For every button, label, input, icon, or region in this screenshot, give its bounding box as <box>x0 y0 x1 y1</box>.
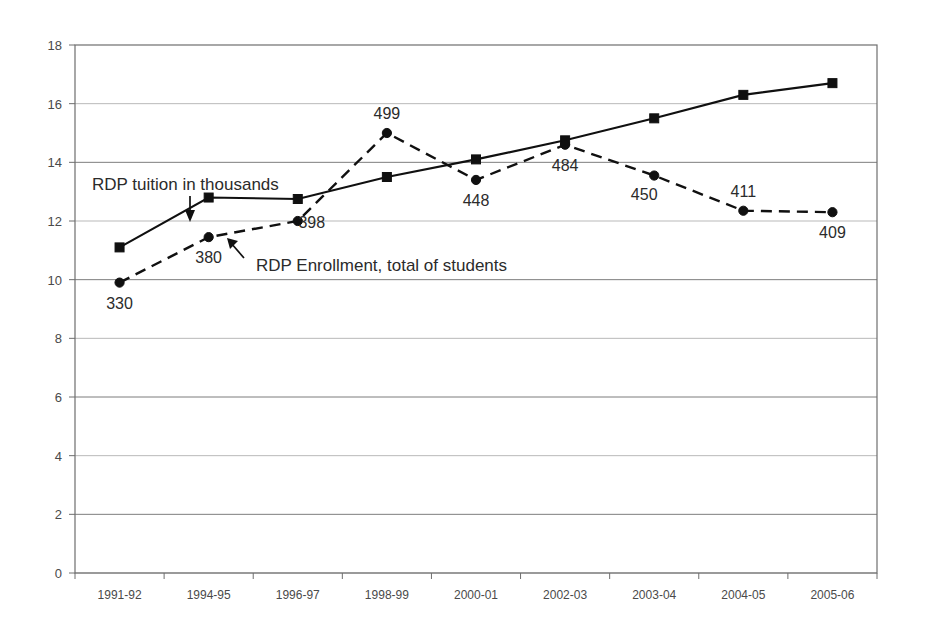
y-axis-ticks-group <box>69 45 75 573</box>
x-axis-tick-label: 1994-95 <box>187 588 231 602</box>
x-axis-tick-label: 2002-03 <box>543 588 587 602</box>
y-axis-labels-group: 024681012141618 <box>48 38 62 581</box>
x-axis-tick-label: 1998-99 <box>365 588 409 602</box>
x-axis-ticks-group <box>75 573 877 579</box>
x-axis-tick-label: 2000-01 <box>454 588 498 602</box>
data-point-label: 398 <box>298 214 325 231</box>
enrollment-data-point <box>561 140 570 149</box>
arrow-up-left-head-icon <box>227 238 238 249</box>
y-axis-tick-label: 0 <box>55 566 62 581</box>
x-axis-labels-group: 1991-921994-951996-971998-992000-012002-… <box>98 588 855 602</box>
enrollment-data-point <box>739 206 748 215</box>
enrollment-data-point <box>828 208 837 217</box>
y-axis-tick-label: 18 <box>48 38 62 53</box>
data-point-label: 484 <box>552 157 579 174</box>
x-axis-tick-label: 1996-97 <box>276 588 320 602</box>
enrollment-data-point <box>382 128 391 137</box>
data-point-label: 450 <box>631 186 658 203</box>
x-axis-tick-label: 2005-06 <box>810 588 854 602</box>
data-point-label: 409 <box>819 224 846 241</box>
x-axis-tick-label: 1991-92 <box>98 588 142 602</box>
data-point-label: 411 <box>731 183 757 200</box>
data-point-label: 448 <box>463 192 490 209</box>
x-axis-tick-label: 2003-04 <box>632 588 676 602</box>
tuition-annotation-label: RDP tuition in thousands <box>92 175 279 194</box>
data-point-label: 499 <box>374 105 401 122</box>
y-axis-tick-label: 8 <box>55 331 62 346</box>
tuition-line <box>120 83 833 247</box>
chart-canvas: 024681012141618 1991-921994-951996-97199… <box>0 0 925 644</box>
arrow-down-head-icon <box>185 210 195 222</box>
enrollment-data-point <box>115 278 124 287</box>
tuition-data-point <box>472 155 481 164</box>
enrollment-data-point <box>650 171 659 180</box>
tuition-data-point <box>739 90 748 99</box>
y-axis-tick-label: 10 <box>48 273 62 288</box>
y-axis-tick-label: 12 <box>48 214 62 229</box>
y-axis-tick-label: 2 <box>55 507 62 522</box>
tuition-data-point <box>293 195 302 204</box>
tuition-data-point <box>650 114 659 123</box>
plot-area-frame <box>75 45 877 573</box>
y-axis-tick-label: 6 <box>55 390 62 405</box>
y-axis-tick-label: 14 <box>48 155 62 170</box>
enrollment-annotation-label: RDP Enrollment, total of students <box>256 256 507 275</box>
data-point-label: 330 <box>106 295 133 312</box>
data-point-label: 380 <box>195 249 222 266</box>
enrollment-data-point <box>471 175 480 184</box>
enrollment-data-point <box>204 233 213 242</box>
tuition-data-point <box>204 193 213 202</box>
tuition-data-point <box>382 173 391 182</box>
tuition-data-point <box>828 79 837 88</box>
y-axis-tick-label: 4 <box>55 449 62 464</box>
y-axis-tick-label: 16 <box>48 97 62 112</box>
tuition-data-point <box>115 243 124 252</box>
x-axis-tick-label: 2004-05 <box>721 588 765 602</box>
line-chart: 024681012141618 1991-921994-951996-97199… <box>0 0 925 644</box>
